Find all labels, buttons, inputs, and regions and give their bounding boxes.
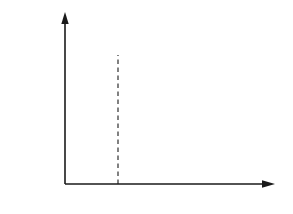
distribution-figure bbox=[0, 0, 293, 214]
figure-canvas bbox=[0, 0, 293, 214]
y-axis-arrowhead bbox=[61, 12, 68, 24]
x-axis-arrowhead bbox=[262, 180, 275, 187]
